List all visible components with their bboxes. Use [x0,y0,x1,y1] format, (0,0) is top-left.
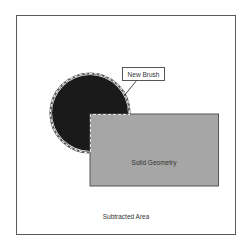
csg-diagram: New Brush Solid Geometry Subtracted Area [0,0,248,248]
solid-geometry-label: Solid Geometry [132,159,178,167]
solid-geometry-rect [90,114,219,186]
subtracted-area-label: Subtracted Area [103,213,150,220]
new-brush-label: New Brush [128,71,160,78]
